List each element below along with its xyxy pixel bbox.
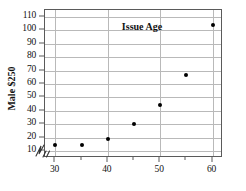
x-axis: 30405060 (0, 157, 246, 191)
y-tick-label: 80 (27, 51, 36, 61)
x-tick-label: 40 (102, 165, 111, 175)
y-tick-label: 60 (27, 78, 36, 88)
data-point (80, 143, 84, 147)
y-tick-label: 110 (23, 11, 36, 21)
y-tick-mark (39, 69, 44, 70)
x-tick-label: 60 (207, 165, 216, 175)
gridline-horizontal (45, 111, 221, 112)
x-axis-title: Issue Age (0, 21, 246, 32)
y-tick-mark (39, 42, 44, 43)
data-point (158, 103, 162, 107)
x-tick-mark (159, 157, 160, 162)
data-point (132, 122, 136, 126)
gridline-horizontal (45, 151, 221, 152)
data-point (106, 137, 110, 141)
x-tick-mark (106, 157, 107, 162)
gridline-horizontal (45, 71, 221, 72)
x-axis-title-text: Issue Age (84, 21, 162, 32)
y-tick-mark (39, 83, 44, 84)
gridline-horizontal (45, 84, 221, 85)
x-tick-mark (80, 157, 81, 160)
y-tick-mark (39, 136, 44, 137)
gridline-horizontal (45, 138, 221, 139)
axis-break-icon (33, 143, 57, 161)
y-tick-mark (39, 109, 44, 110)
gridline-horizontal (45, 44, 221, 45)
gridline-horizontal (45, 97, 221, 98)
y-tick-mark (39, 15, 44, 16)
y-tick-label: 20 (27, 132, 36, 142)
y-tick-label: 50 (27, 92, 36, 102)
y-tick-mark (39, 96, 44, 97)
y-tick-mark (39, 56, 44, 57)
y-axis-title: Male $250 (6, 51, 17, 127)
x-tick-mark (211, 157, 212, 162)
y-tick-label: 70 (27, 65, 36, 75)
y-tick-label: 30 (27, 119, 36, 129)
scatter-chart: 102030405060708090100110 Male $250 30405… (0, 0, 246, 191)
x-tick-mark (133, 157, 134, 160)
y-tick-label: 40 (27, 105, 36, 115)
y-tick-label: 90 (27, 38, 36, 48)
x-tick-mark (185, 157, 186, 160)
x-tick-label: 50 (155, 165, 164, 175)
data-point (184, 73, 188, 77)
x-tick-label: 30 (50, 165, 59, 175)
gridline-horizontal (45, 57, 221, 58)
y-tick-mark (39, 123, 44, 124)
gridline-horizontal (45, 17, 221, 18)
